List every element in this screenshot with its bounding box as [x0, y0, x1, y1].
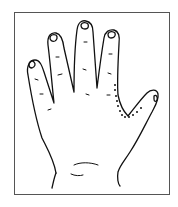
- nail-index: [108, 32, 115, 38]
- wrist-crease-1: [74, 163, 98, 165]
- nail-middle: [81, 23, 88, 29]
- wrist-crease-2: [71, 174, 83, 176]
- wrist-left: [52, 173, 56, 188]
- nail-thumb: [154, 95, 157, 101]
- hand-outline: [27, 21, 158, 186]
- hand-drawing: [0, 0, 178, 207]
- nail-little: [29, 61, 35, 68]
- nail-ring: [50, 35, 57, 42]
